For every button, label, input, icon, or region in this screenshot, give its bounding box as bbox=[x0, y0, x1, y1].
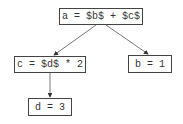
node-b: b = 1 bbox=[128, 55, 172, 73]
node-d: d = 3 bbox=[28, 98, 72, 116]
edge-a-b bbox=[106, 25, 148, 54]
node-c: c = $d$ * 2 bbox=[14, 56, 86, 73]
node-a: a = $b$ + $c$ bbox=[59, 8, 143, 25]
edge-a-c bbox=[54, 25, 96, 55]
